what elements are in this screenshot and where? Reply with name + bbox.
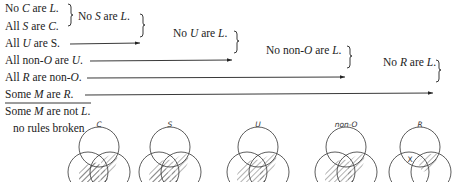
- venn-u: [227, 127, 289, 182]
- venn-s: [139, 127, 201, 182]
- venn-label-c: C: [96, 120, 101, 129]
- venn-label-u: U: [255, 120, 261, 129]
- arrow-icons: [70, 43, 433, 95]
- venn-label-s: S: [168, 120, 173, 129]
- venn-non-o: [315, 127, 377, 182]
- diagram-overlay: [0, 0, 457, 182]
- venn-c: [68, 127, 130, 182]
- venn-label-non-o: non-O: [335, 120, 358, 129]
- existence-marker: X: [407, 155, 412, 164]
- venn-label-r: R: [417, 120, 422, 129]
- venn-r: [389, 127, 451, 182]
